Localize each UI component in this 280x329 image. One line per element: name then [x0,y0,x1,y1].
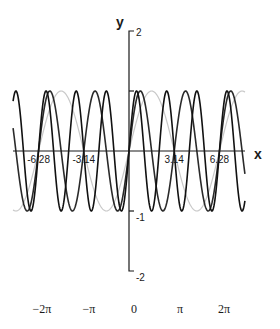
x-tick-label: -3.14 [72,154,95,165]
x-tick-label: 3.14 [164,154,184,165]
pi-label: −2π [33,302,52,317]
pi-label: 2π [218,302,230,317]
pi-label: −π [83,302,96,317]
pi-label-row: −2π−π0π2π [0,300,280,320]
x-tick-label: -6.28 [27,154,50,165]
y-tick-label: 2 [136,27,142,38]
sine-wave-chart: 2-1-2 -6.28-3.143.146.28 x y [0,0,280,329]
y-axis-title: y [116,14,124,30]
y-tick-label: -1 [136,212,145,223]
x-tick-label: 6.28 [210,154,230,165]
pi-label: 0 [131,302,137,317]
pi-label: π [177,302,183,317]
y-axis-ticks: 2-1-2 [129,27,145,283]
x-axis-title: x [254,146,262,162]
y-tick-label: -2 [136,272,145,283]
